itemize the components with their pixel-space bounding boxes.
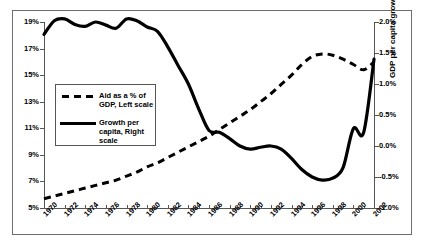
legend-entry-aid: Aid as a % of GDP, Left scale [60, 91, 153, 109]
chart-legend: Aid as a % of GDP, Left scale Growth per… [55, 84, 156, 146]
legend-label-growth: Growth per capita, Right scale [99, 118, 144, 145]
legend-label-aid: Aid as a % of GDP, Left scale [99, 91, 153, 109]
legend-solid-swatch-icon [60, 118, 96, 130]
legend-entry-growth: Growth per capita, Right scale [60, 118, 144, 145]
chart-figure: 19%17%15%13%11%9%7%5% 2.0%1.5%1.0%0.5%0.… [0, 0, 424, 247]
legend-dashed-swatch-icon [60, 91, 96, 103]
